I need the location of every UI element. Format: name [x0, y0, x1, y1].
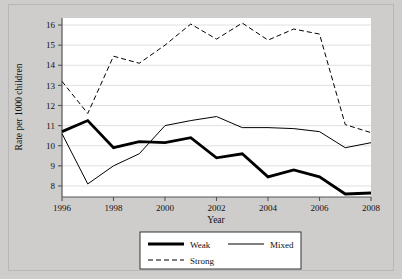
chart-figure: 8910111213141516 19961998200020022004200…	[0, 0, 402, 279]
figure-border	[8, 4, 394, 271]
